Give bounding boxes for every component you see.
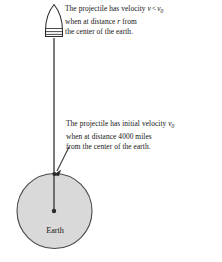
projectile-bullet xyxy=(46,5,63,37)
bottom-annotation-line-1: The projectile has initial velocity v0 xyxy=(66,119,174,132)
earth-label: Earth xyxy=(0,226,110,235)
initial-velocity-subscript: 0 xyxy=(172,123,175,129)
bottom-line1-prefix: The projectile has initial velocity xyxy=(66,119,168,128)
top-annotation-line-3: the center of the earth. xyxy=(65,27,163,37)
velocity-v0-subscript: 0 xyxy=(161,8,164,14)
top-line2-suffix: from xyxy=(120,17,137,26)
top-annotation-line-1: The projectile has velocity v<v0 xyxy=(65,4,163,17)
top-annotation-text: The projectile has velocity v<v0 when at… xyxy=(65,4,163,36)
surface-pointer-arrow xyxy=(54,147,69,176)
projectile-earth-diagram: The projectile has velocity v<v0 when at… xyxy=(0,0,222,262)
top-annotation-line-2: when at distance r from xyxy=(65,17,163,27)
launch-point-marker xyxy=(52,172,56,176)
bottom-annotation-text: The projectile has initial velocity v0 w… xyxy=(66,119,174,151)
bottom-annotation-line-2: when at distance 4000 miles xyxy=(66,132,174,142)
bottom-annotation-line-3: from the center of the earth. xyxy=(66,142,174,152)
top-line2-prefix: when at distance xyxy=(65,17,117,26)
top-line1-prefix: The projectile has velocity xyxy=(65,4,148,13)
earth-center-marker xyxy=(52,209,56,213)
